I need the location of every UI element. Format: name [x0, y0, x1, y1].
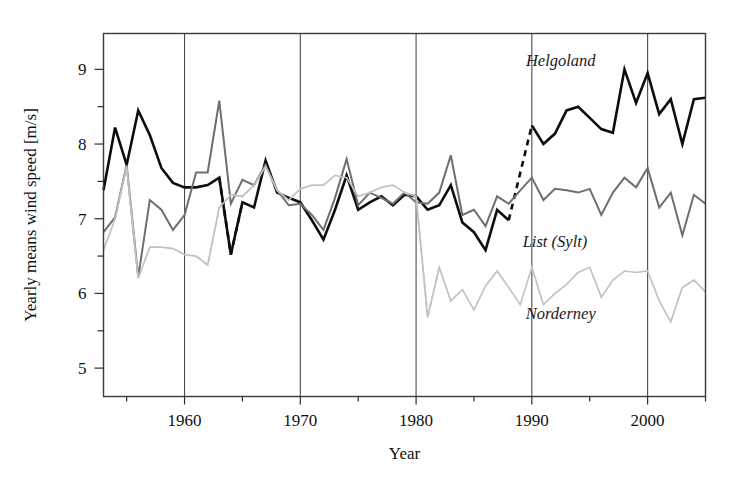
y-axis-label: Yearly means wind speed [m/s] — [21, 108, 40, 322]
x-tick-label-1980: 1980 — [399, 411, 433, 430]
x-tick-label-1960: 1960 — [168, 411, 202, 430]
x-tick-label-1990: 1990 — [515, 411, 549, 430]
x-axis-label: Year — [389, 444, 421, 463]
wind-speed-chart: 19601970198019902000 56789 HelgolandList… — [0, 0, 741, 499]
helgoland-label: Helgoland — [525, 51, 596, 70]
y-tick-label-9: 9 — [78, 60, 87, 79]
x-tick-label-1970: 1970 — [283, 411, 317, 430]
list-sylt-label: List (Sylt) — [522, 232, 588, 251]
y-tick-label-5: 5 — [78, 359, 87, 378]
y-tick-label-6: 6 — [78, 284, 87, 303]
y-tick-label-7: 7 — [78, 210, 87, 229]
norderney-label: Norderney — [525, 304, 597, 323]
y-tick-label-8: 8 — [78, 135, 87, 154]
x-tick-label-2000: 2000 — [631, 411, 665, 430]
